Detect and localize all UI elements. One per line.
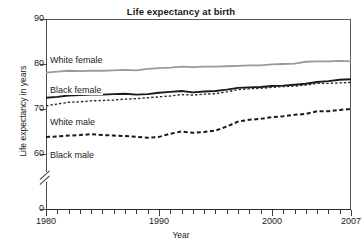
y-tick-label-80: 80 [4,59,44,68]
y-tick-label-60: 60 [4,149,44,158]
life-expectancy-chart: Life expectancy at birth Life expectancy… [0,0,362,247]
x-tick-label-2000: 2000 [252,216,292,226]
x-tick-1999 [261,210,262,214]
x-tick-2005 [328,210,329,214]
x-tick-label-1990: 1990 [139,216,179,226]
x-tick-label-2007: 2007 [331,216,362,226]
series-label-black-female: Black female [49,85,103,95]
series-label-white-female: White female [49,55,104,65]
y-tick-label-70: 70 [4,104,44,113]
x-tick-1998 [249,210,250,214]
x-tick-1994 [204,210,205,214]
x-tick-1985 [102,210,103,214]
x-tick-2003 [306,210,307,214]
x-tick-1991 [170,210,171,214]
y-tick-label-0: 0 [4,204,44,213]
x-tick-1981 [57,210,58,214]
x-tick-2002 [295,210,296,214]
x-tick-1986 [114,210,115,214]
x-tick-2004 [317,210,318,214]
x-tick-1983 [80,210,81,214]
x-tick-2001 [283,210,284,214]
x-axis-title: Year [0,230,362,240]
x-tick-1989 [148,210,149,214]
x-tick-1988 [136,210,137,214]
x-tick-1995 [215,210,216,214]
x-tick-label-1980: 1980 [26,216,66,226]
series-lines [46,19,351,209]
x-tick-1992 [182,210,183,214]
x-tick-1984 [91,210,92,214]
x-tick-1996 [227,210,228,214]
y-tick-label-90: 90 [4,14,44,23]
x-tick-2006 [340,210,341,214]
chart-title: Life expectancy at birth [0,6,362,17]
x-tick-1993 [193,210,194,214]
series-label-black-male: Black male [49,150,95,160]
x-tick-1982 [69,210,70,214]
series-label-white-male: White male [49,117,96,127]
x-tick-1987 [125,210,126,214]
x-tick-1997 [238,210,239,214]
